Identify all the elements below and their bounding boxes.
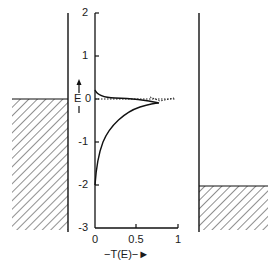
transmission-curve-solid [95, 90, 159, 185]
x-axis-label: −T(E)−► [104, 249, 149, 260]
x-tick-0-5: 0.5 [124, 234, 148, 245]
y-tick-2: 2 [68, 7, 88, 18]
x-axis-label-text: T(E) [110, 248, 131, 260]
y-tick-minus2: -2 [68, 179, 88, 190]
y-tick-minus3: -3 [68, 222, 88, 233]
y-tick-1: 1 [68, 50, 88, 61]
x-tick-0: 0 [83, 234, 107, 245]
x-tick-1: 1 [166, 234, 190, 245]
tunneling-diagram [0, 0, 279, 265]
plot-axes [95, 13, 178, 228]
y-tick-minus1: -1 [68, 136, 88, 147]
x-axis-right-arrow-icon: −► [132, 248, 149, 260]
y-axis-label: E [74, 93, 81, 104]
left-electrode [12, 13, 68, 232]
right-electrode [199, 13, 268, 232]
